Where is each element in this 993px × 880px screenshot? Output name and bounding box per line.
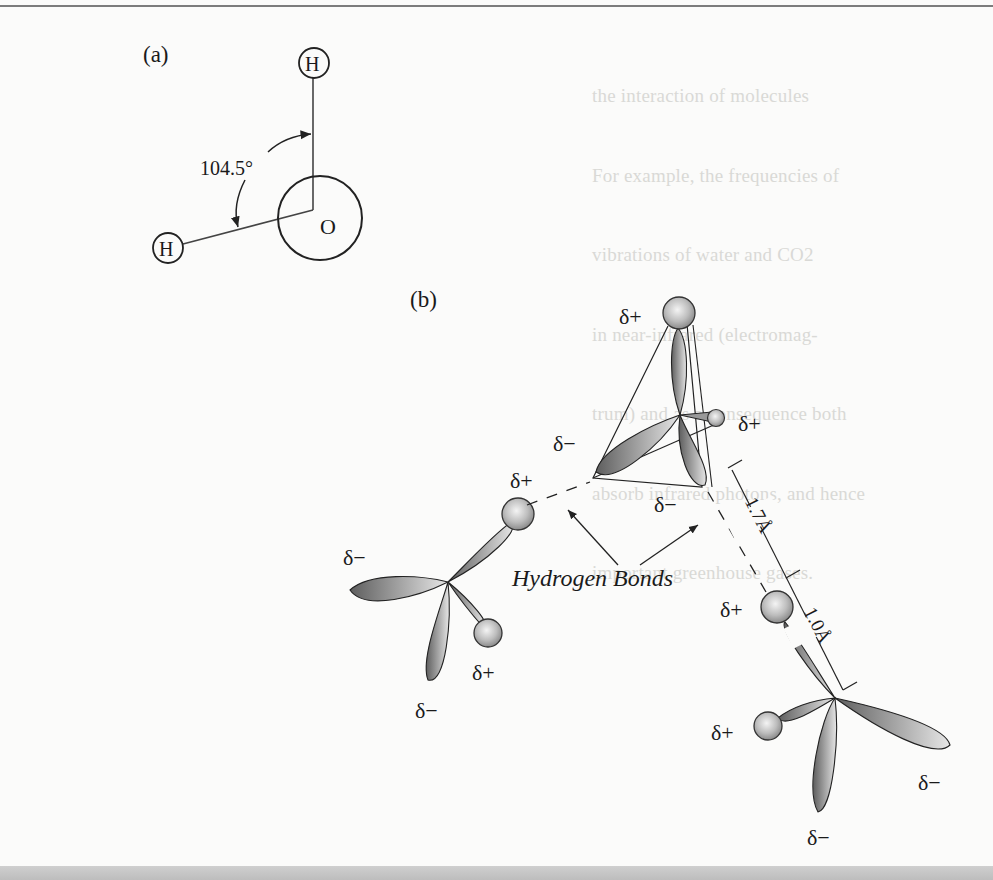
scanned-page: the interaction of molecules For example… [0, 0, 993, 880]
charge-label: δ− [415, 698, 438, 723]
dimension-tick [843, 682, 857, 690]
lone-pair-lobe-icon [426, 582, 449, 680]
charge-label: δ+ [619, 304, 642, 329]
panel-b-label: (b) [410, 287, 437, 312]
charge-label: δ− [918, 770, 941, 795]
left-water-molecule: δ+ δ− δ+ δ− [343, 468, 534, 723]
angle-arc-upper-icon [268, 134, 311, 152]
lone-pair-lobe-icon [813, 698, 836, 812]
charge-label: δ+ [738, 411, 761, 436]
hydrogen-bond-dashed-line [527, 482, 590, 505]
oxygen-label: O [320, 214, 336, 239]
charge-label: δ+ [510, 468, 533, 493]
angle-arc-lower-icon [236, 180, 245, 227]
page-bottom-edge [0, 866, 993, 880]
bond-lobe-icon [672, 328, 687, 415]
hydrogen-bonds-label: Hydrogen Bonds [511, 565, 673, 591]
o-h-bond-diagonal [183, 210, 313, 244]
bond-lobe-icon [448, 522, 513, 582]
panel-b: (b) δ+ δ+ δ− δ− [343, 287, 950, 850]
hydrogen-atom-icon [754, 712, 782, 740]
arrow-icon [568, 510, 618, 565]
charge-label: δ− [343, 545, 366, 570]
hydrogen-atom-icon [663, 297, 695, 329]
panel-a: (a) O H H 104.5° [143, 42, 362, 263]
lone-pair-lobe-icon [835, 698, 950, 749]
charge-label: δ+ [711, 720, 734, 745]
hydrogen-atom-icon [708, 410, 725, 427]
lone-pair-lobe-icon [679, 415, 706, 485]
charge-label: δ− [654, 492, 677, 517]
upper-water-molecule: δ+ δ+ δ− δ− [553, 297, 761, 517]
bond-angle-label: 104.5° [200, 157, 253, 179]
lone-pair-lobe-icon [350, 577, 448, 601]
hydrogen-atom-icon [761, 591, 793, 623]
charge-label: δ− [807, 825, 830, 850]
hydrogen-left-label: H [159, 238, 173, 260]
arrow-icon [640, 525, 698, 565]
hydrogen-atom-icon [502, 498, 534, 530]
distance-dimension: 1.7Å 1.0Å [725, 460, 857, 690]
water-molecule-figure: (a) O H H 104.5° (b) [0, 0, 993, 880]
hydrogen-atom-icon [474, 619, 502, 647]
charge-label: δ+ [472, 660, 495, 685]
charge-label: δ+ [720, 597, 743, 622]
hydrogen-top-label: H [305, 53, 319, 75]
dimension-tick [786, 570, 800, 578]
panel-a-label: (a) [143, 42, 169, 67]
charge-label: δ− [553, 431, 576, 456]
dimension-tick [728, 460, 742, 468]
